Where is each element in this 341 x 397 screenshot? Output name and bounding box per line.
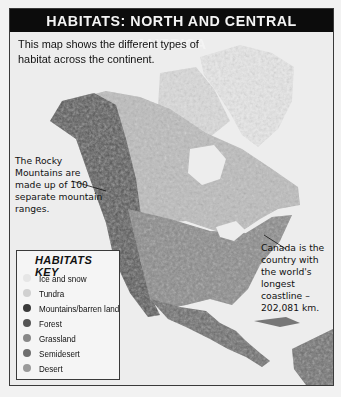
- south-america: [292, 329, 333, 385]
- central-america: [150, 299, 270, 367]
- canada-coastline-callout: Canada is the country with the world's l…: [261, 242, 333, 314]
- key-item-forest: Forest: [23, 316, 66, 330]
- intro-text: This map shows the different types of ha…: [18, 37, 208, 67]
- caribbean-islands: [254, 317, 300, 327]
- map-title-bar: HABITATS: NORTH AND CENTRAL AMERICA: [10, 9, 333, 32]
- key-item-semidesert: Semidesert: [23, 346, 87, 360]
- key-item-mountains: Mountains/barren land: [23, 301, 134, 315]
- rocky-mountains-callout: The Rocky Mountains are made up of 100 s…: [15, 155, 105, 215]
- tundra-swatch-icon: [23, 289, 31, 297]
- mountains-swatch-icon: [23, 304, 31, 312]
- key-item-tundra: Tundra: [23, 286, 69, 300]
- ice-snow-swatch-icon: [23, 274, 31, 282]
- semidesert-swatch-icon: [23, 349, 31, 357]
- grassland-swatch-icon: [23, 334, 31, 342]
- key-item-desert: Desert: [23, 361, 67, 375]
- key-item-ice-snow: Ice and snow: [23, 271, 95, 285]
- forest-swatch-icon: [23, 319, 31, 327]
- desert-swatch-icon: [23, 364, 31, 372]
- habitats-key: HABITATS KEY Ice and snow Tundra Mountai…: [16, 250, 120, 380]
- key-item-grassland: Grassland: [23, 331, 82, 345]
- map-frame: HABITATS: NORTH AND CENTRAL AMERICA This…: [9, 8, 334, 386]
